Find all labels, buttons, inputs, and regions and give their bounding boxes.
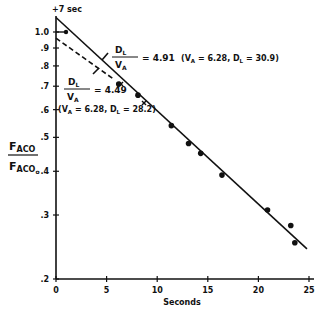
y-tick-label: .8 — [40, 62, 49, 71]
x-tick-label: 15 — [202, 286, 214, 295]
data-point — [288, 223, 294, 229]
x-tick-label: 10 — [152, 286, 164, 295]
svg-text:= 4.49: = 4.49 — [94, 85, 127, 95]
data-point — [292, 240, 298, 246]
svg-text:= 4.91: = 4.91 — [142, 53, 175, 63]
y-tick-label: .7 — [40, 82, 49, 91]
svg-text:DL: DL — [68, 77, 79, 88]
x-tick-label: 5 — [104, 286, 110, 295]
annotation-4-91: DL VA = 4.91 (VA = 6.28, DL = 30.9) — [102, 45, 279, 71]
svg-text:VA: VA — [115, 60, 127, 71]
x-tick-label: 20 — [253, 286, 265, 295]
svg-text:FACO: FACO — [9, 140, 36, 154]
svg-text:(VA = 6.28, DL = 30.9): (VA = 6.28, DL = 30.9) — [181, 54, 279, 64]
chart: 0510152025 1.0.9.8.7.6.5.4.3.2 +7 sec DL… — [0, 0, 324, 312]
svg-text:VA: VA — [67, 92, 79, 103]
y-tick-label: .5 — [40, 133, 49, 142]
x-tick-label: 25 — [303, 286, 315, 295]
svg-text:DL: DL — [115, 45, 126, 56]
data-point — [135, 92, 141, 98]
data-point — [219, 172, 225, 178]
x-axis-label: Seconds — [163, 298, 201, 307]
fit-lines — [56, 18, 307, 249]
y-tick-label: .3 — [40, 211, 49, 220]
y-tick-label: .4 — [40, 167, 49, 176]
y-tick-label: 1.0 — [35, 28, 50, 37]
y-tick-label: .2 — [40, 275, 49, 284]
data-point — [198, 151, 204, 157]
y-tick-label: .6 — [40, 106, 49, 115]
svg-text:(VA = 6.28, DL = 28.2): (VA = 6.28, DL = 28.2) — [58, 105, 156, 115]
y-axis-label: FACO FACOo — [8, 140, 40, 175]
y-tick-label: .9 — [40, 44, 49, 53]
data-point — [169, 123, 175, 129]
svg-text:FACOo: FACOo — [9, 160, 40, 175]
top-annotation: +7 sec — [52, 5, 82, 14]
x-tick-label: 0 — [53, 286, 59, 295]
data-point — [186, 141, 192, 147]
data-point — [265, 207, 271, 213]
annotation-4-49: DL VA = 4.49 (VA = 6.28, DL = 28.2) — [58, 68, 156, 115]
solid-fit-line — [56, 18, 307, 249]
